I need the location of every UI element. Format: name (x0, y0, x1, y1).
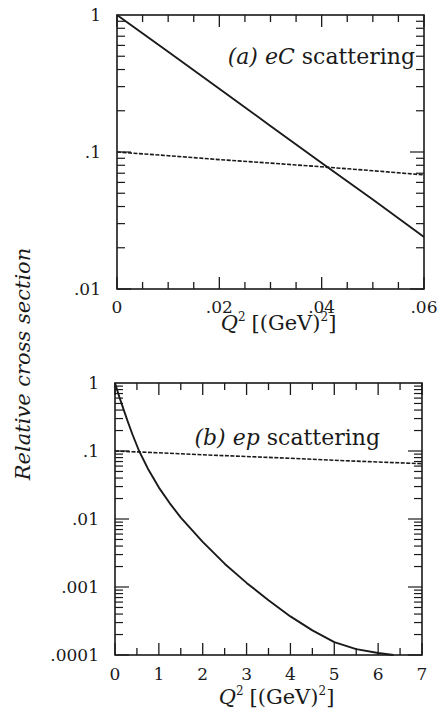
series-dashed (115, 451, 422, 464)
y-tick-label: .001 (61, 577, 99, 597)
x-tick-label: 6 (373, 664, 384, 684)
y-axis-label: Relative cross section (11, 248, 35, 482)
x-tick-label: 0 (112, 297, 123, 317)
y-tick-label: 1 (90, 5, 101, 25)
panel-title: (a) eC scattering (228, 44, 415, 69)
series-solid (115, 383, 394, 655)
y-tick-label: .1 (83, 441, 99, 461)
y-tick-label: .01 (74, 279, 101, 299)
x-tick-label: 1 (153, 664, 164, 684)
figure: 0.02.04.06.01.11(a) eC scatteringQ2[(GeV… (0, 0, 448, 728)
x-axis-label: Q2[(GeV)2] (219, 684, 335, 709)
y-tick-label: 1 (88, 373, 99, 393)
y-tick-label: .01 (72, 509, 99, 529)
x-axis-label: Q2[(GeV)2] (221, 310, 337, 335)
x-tick-label: .06 (410, 297, 437, 317)
series-dashed (117, 152, 424, 175)
x-tick-label: 5 (329, 664, 340, 684)
panel-a-eC-scattering: 0.02.04.06.01.11(a) eC scatteringQ2[(GeV… (74, 5, 438, 335)
plot-frame (115, 383, 422, 655)
y-tick-label: .1 (85, 142, 101, 162)
panel-title: (b) ep scattering (194, 425, 380, 450)
x-tick-label: 3 (241, 664, 252, 684)
x-tick-label: 2 (197, 664, 208, 684)
x-tick-label: 7 (417, 664, 428, 684)
x-tick-label: 0 (110, 664, 121, 684)
x-tick-label: 4 (285, 664, 296, 684)
y-tick-label: .0001 (50, 645, 99, 665)
panel-b-ep-scattering: 01234567.0001.001.01.11(b) ep scattering… (50, 373, 427, 709)
